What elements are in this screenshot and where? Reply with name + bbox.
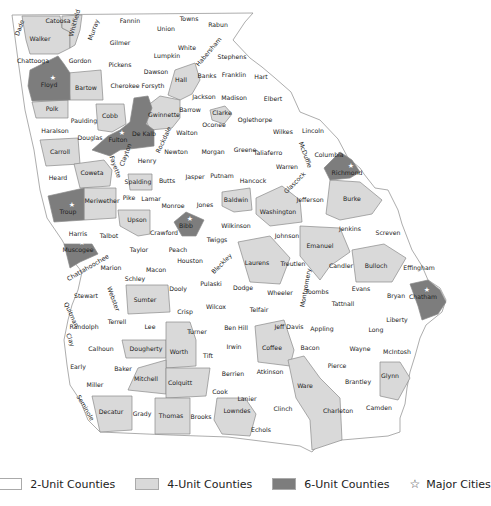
county-label-forsyth: Forsyth: [142, 82, 165, 90]
county-label-lowndes: Lowndes: [223, 407, 250, 414]
major-city-star-icon: ★: [424, 286, 430, 294]
county-label-newton: Newton: [164, 148, 188, 155]
county-label-hancock: Hancock: [240, 177, 267, 184]
county-label-decatur: Decatur: [99, 408, 124, 415]
major-city-star-icon: ★: [119, 129, 125, 137]
county-label-taliaferro: Taliaferro: [253, 149, 283, 156]
county-label-white: White: [178, 44, 196, 51]
county-label-banks: Banks: [198, 72, 217, 79]
county-label-oglethorpe: Oglethorpe: [238, 116, 273, 124]
county-label-wheeler: Wheeler: [267, 289, 293, 296]
county-label-appling: Appling: [310, 325, 333, 333]
county-label-dawson: Dawson: [144, 68, 169, 75]
county-label-clinch: Clinch: [273, 405, 292, 412]
county-label-bacon: Bacon: [300, 344, 319, 351]
county-label-pulaski: Pulaski: [200, 280, 222, 287]
county-label-terrell: Terrell: [107, 318, 127, 325]
county-label-oconee: Oconee: [202, 121, 226, 128]
major-city-star-icon: ★: [187, 215, 193, 223]
county-label-polk: Polk: [46, 105, 59, 112]
county-label-peach: Peach: [169, 246, 188, 253]
county-label-butts: Butts: [159, 177, 175, 184]
county-label-jeff-davis: Jeff Davis: [273, 323, 303, 331]
county-label-jasper: Jasper: [184, 173, 205, 181]
county-label-harris: Harris: [69, 230, 87, 237]
major-city-star-icon: ★: [69, 201, 75, 209]
county-label-cherokee: Cherokee: [110, 82, 139, 89]
county-label-franklin: Franklin: [222, 71, 246, 78]
county-label-fannin: Fannin: [120, 17, 140, 24]
county-label-schley: Schley: [125, 275, 146, 283]
county-label-long: Long: [369, 326, 384, 334]
county-label-echols: Echols: [251, 426, 271, 433]
county-label-dooly: Dooly: [169, 285, 187, 293]
county-label-wilkinson: Wilkinson: [221, 222, 251, 229]
county-label-carroll: Carroll: [50, 148, 70, 155]
county-label-monroe: Monroe: [161, 202, 184, 209]
county-label-lee: Lee: [145, 323, 156, 330]
county-label-wilkes: Wilkes: [273, 128, 293, 135]
county-label-miller: Miller: [87, 381, 104, 388]
county-label-houston: Houston: [177, 257, 203, 264]
county-label-bartow: Bartow: [75, 84, 97, 91]
county-label-catoosa: Catoosa: [45, 17, 70, 24]
county-label-telfair: Telfair: [249, 306, 269, 313]
county-label-douglas: Douglas: [77, 134, 102, 142]
county-label-lumpkin: Lumpkin: [154, 52, 181, 60]
county-label-bryan: Bryan: [387, 292, 405, 300]
county-label-rabun: Rabun: [208, 21, 228, 28]
county-label-heard: Heard: [49, 174, 68, 181]
county-label-upson: Upson: [127, 216, 146, 224]
county-label-thomas: Thomas: [158, 412, 184, 419]
legend-label: 2-Unit Counties: [30, 478, 115, 491]
county-label-randolph: Randolph: [69, 323, 98, 331]
county-label-stewart: Stewart: [74, 292, 99, 299]
county-label-meriwether: Meriwether: [85, 197, 120, 204]
county-label-atkinson: Atkinson: [257, 368, 284, 375]
county-label-colquitt: Colquitt: [168, 379, 193, 387]
county-label-lanier: Lanier: [237, 395, 257, 402]
county-label-dodge: Dodge: [233, 284, 253, 292]
county-label-clarke: Clarke: [212, 109, 232, 116]
county-label-effingham: Effingham: [403, 264, 434, 272]
county-label-emanuel: Emanuel: [306, 242, 333, 249]
county-label-turner: Turner: [186, 328, 207, 335]
legend-swatch-6-unit: [272, 478, 296, 490]
county-label-elbert: Elbert: [264, 95, 283, 102]
county-label-burke: Burke: [343, 195, 361, 202]
county-label-candler: Candler: [329, 262, 353, 269]
county-label-baker: Baker: [114, 365, 132, 372]
county-label-union: Union: [157, 25, 175, 32]
map-legend: 2-Unit Counties 4-Unit Counties 6-Unit C…: [0, 462, 489, 506]
county-label-pierce: Pierce: [328, 362, 347, 369]
county-label-coweta: Coweta: [80, 169, 103, 176]
county-label-chattooga: Chattooga: [17, 57, 49, 65]
county-label-hall: Hall: [175, 76, 187, 83]
county-label-glynn: Glynn: [381, 372, 399, 380]
county-label-crisp: Crisp: [177, 308, 193, 316]
legend-swatch-2-unit: [0, 478, 22, 490]
county-label-haralson: Haralson: [41, 127, 69, 134]
county-label-de-kalb: De Kalb: [132, 130, 156, 137]
county-label-wayne: Wayne: [350, 345, 371, 353]
legend-item-6-unit: 6-Unit Counties: [272, 478, 389, 491]
county-label-calhoun: Calhoun: [88, 345, 113, 352]
county-label-gilmer: Gilmer: [110, 39, 131, 46]
county-label-marion: Marion: [100, 264, 121, 271]
county-meriwether: [84, 188, 116, 220]
major-city-star-icon: ★: [348, 162, 354, 170]
county-label-gwinnette: Gwinnette: [148, 111, 180, 118]
county-label-johnson: Johnson: [274, 232, 299, 240]
county-label-tift: Tift: [202, 352, 213, 359]
georgia-county-map: DadeCatoosaWalkerWhitfieldMurrayFanninUn…: [0, 0, 489, 460]
county-label-screven: Screven: [376, 229, 401, 236]
county-label-spalding: Spalding: [125, 178, 152, 186]
county-label-jefferson: Jefferson: [295, 196, 323, 204]
county-label-stephens: Stephens: [218, 53, 247, 61]
major-city-star-icon: ★: [79, 239, 85, 247]
county-label-walker: Walker: [30, 35, 51, 42]
county-label-hart: Hart: [254, 73, 268, 80]
county-label-grady: Grady: [133, 410, 152, 418]
county-label-wilcox: Wilcox: [206, 303, 226, 310]
county-label-early: Early: [70, 363, 86, 371]
